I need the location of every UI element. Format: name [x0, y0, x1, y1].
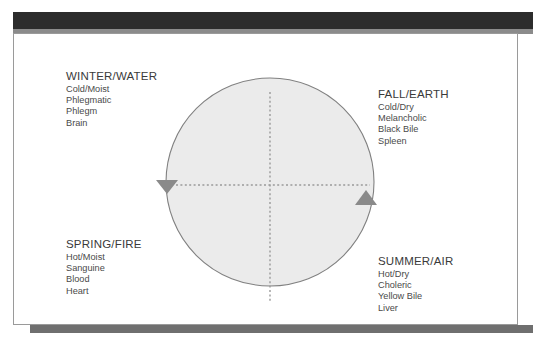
quadrant-line: Hot/Dry [378, 269, 453, 280]
quadrant-winter-water: WINTER/WATER Cold/Moist Phlegmatic Phleg… [66, 69, 157, 129]
quadrant-spring-fire: SPRING/FIRE Hot/Moist Sanguine Blood Hea… [66, 237, 142, 297]
quadrant-line: Phlegmatic [66, 95, 157, 106]
quadrant-line: Blood [66, 274, 142, 285]
quadrant-title: FALL/EARTH [378, 87, 449, 101]
quadrant-line: Phlegm [66, 106, 157, 117]
quadrant-summer-air: SUMMER/AIR Hot/Dry Choleric Yellow Bile … [378, 254, 453, 314]
quadrant-line: Cold/Dry [378, 102, 449, 113]
quadrant-line: Heart [66, 286, 142, 297]
quadrant-title: SPRING/FIRE [66, 237, 142, 251]
quadrant-line: Black Bile [378, 124, 449, 135]
quadrant-line: Choleric [378, 280, 453, 291]
quadrant-title: WINTER/WATER [66, 69, 157, 83]
quadrant-fall-earth: FALL/EARTH Cold/Dry Melancholic Black Bi… [378, 87, 449, 147]
quadrant-line: Melancholic [378, 113, 449, 124]
quadrant-title: SUMMER/AIR [378, 254, 453, 268]
quadrant-line: Liver [378, 303, 453, 314]
quadrant-line: Cold/Moist [66, 84, 157, 95]
quadrant-line: Hot/Moist [66, 252, 142, 263]
quadrant-line: Sanguine [66, 263, 142, 274]
figure-canvas: WINTER/WATER Cold/Moist Phlegmatic Phleg… [0, 0, 533, 357]
quadrant-line: Spleen [378, 136, 449, 147]
quadrant-line: Brain [66, 118, 157, 129]
quadrant-line: Yellow Bile [378, 291, 453, 302]
